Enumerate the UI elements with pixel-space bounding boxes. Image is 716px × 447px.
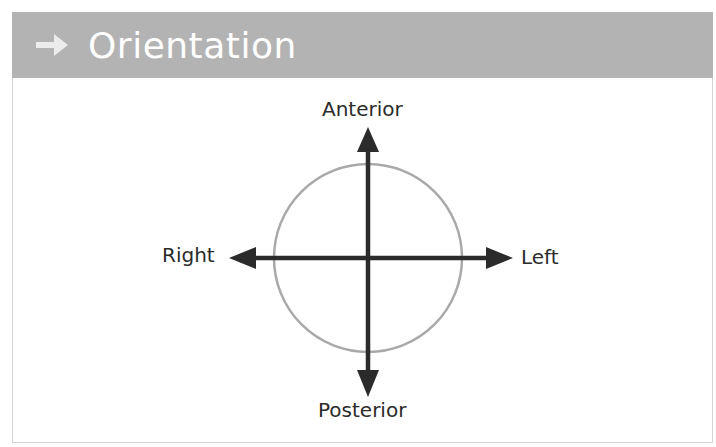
anterior-posterior-axis <box>357 127 379 397</box>
orientation-diagram <box>0 0 716 447</box>
up-arrowhead-icon <box>357 127 379 152</box>
left-arrowhead-icon <box>229 247 256 269</box>
right-arrowhead-icon <box>486 247 513 269</box>
down-arrowhead-icon <box>357 370 379 397</box>
label-left: Left <box>521 245 559 269</box>
right-left-axis <box>229 247 513 269</box>
label-posterior: Posterior <box>318 398 406 422</box>
label-anterior: Anterior <box>322 97 403 121</box>
label-right: Right <box>162 243 215 267</box>
